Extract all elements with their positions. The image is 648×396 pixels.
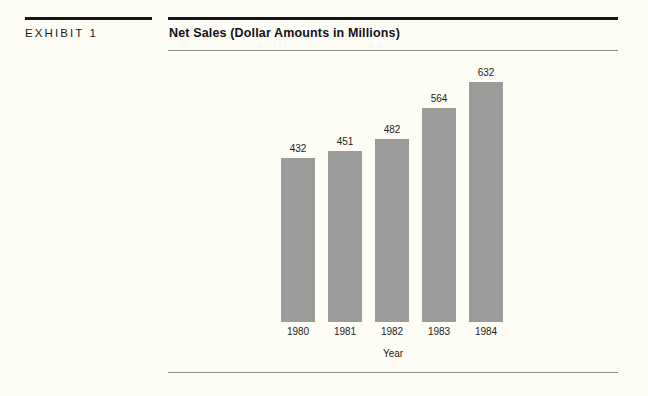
chart-title-underline: [168, 50, 618, 51]
chart-title: Net Sales (Dollar Amounts in Millions): [169, 26, 400, 40]
bar-value-label: 632: [460, 67, 512, 78]
bar-value-label: 482: [366, 124, 418, 135]
x-axis-title: Year: [168, 348, 618, 359]
bar: [422, 108, 456, 322]
x-axis-tick-label: 1982: [366, 326, 418, 337]
bar-value-label: 451: [319, 136, 371, 147]
bar-group: 432: [281, 56, 315, 322]
chart-header-rule: [168, 17, 618, 20]
bar-group: 482: [375, 56, 409, 322]
footer-rule: [168, 372, 618, 373]
bar-value-label: 564: [413, 93, 465, 104]
bar: [469, 82, 503, 322]
bar-value-label: 432: [272, 143, 324, 154]
exhibit-label: EXHIBIT 1: [25, 27, 98, 39]
x-axis-tick-label: 1983: [413, 326, 465, 337]
bar: [328, 151, 362, 322]
x-axis-tick-label: 1981: [319, 326, 371, 337]
x-axis-tick-label: 1980: [272, 326, 324, 337]
bar: [281, 158, 315, 322]
exhibit-page: EXHIBIT 1 Net Sales (Dollar Amounts in M…: [0, 0, 648, 396]
bars-layer: 432451482564632: [168, 56, 618, 322]
bar: [375, 139, 409, 322]
x-axis-tick-labels: 19801981198219831984: [168, 326, 618, 342]
exhibit-label-rule: [25, 17, 152, 20]
bar-group: 632: [469, 56, 503, 322]
chart-plot-area: 432451482564632 19801981198219831984 Yea…: [168, 56, 618, 356]
bar-group: 451: [328, 56, 362, 322]
x-axis-tick-label: 1984: [460, 326, 512, 337]
bar-group: 564: [422, 56, 456, 322]
